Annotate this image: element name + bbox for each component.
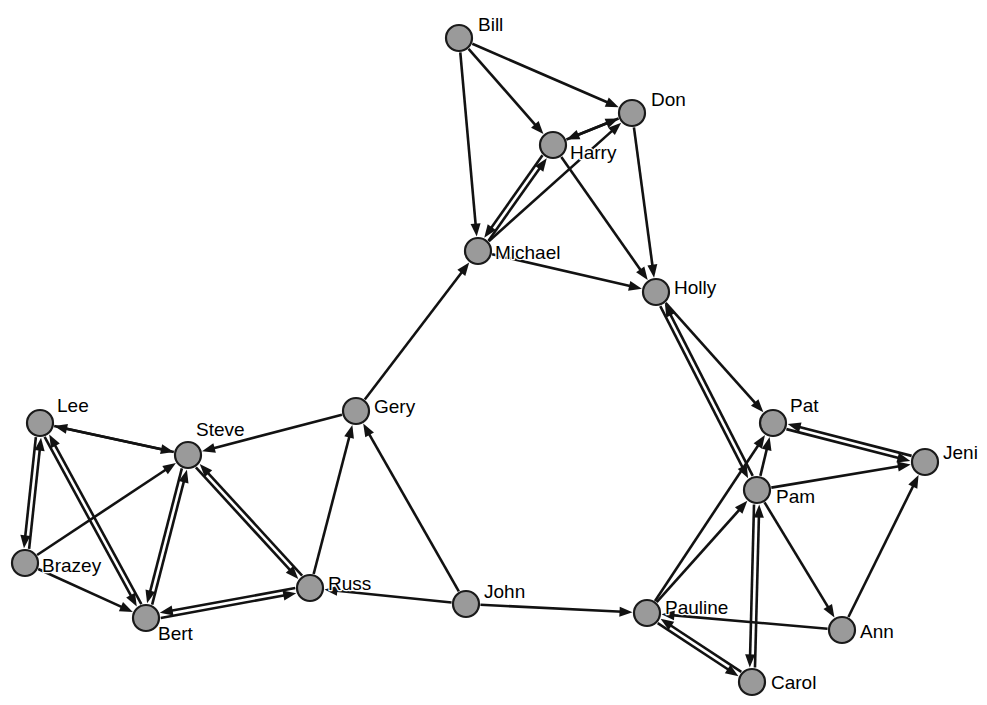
edge-line: [657, 508, 741, 602]
graph-node-carol[interactable]: Carol: [739, 669, 816, 695]
node-circle[interactable]: [446, 25, 472, 51]
edge-line: [786, 429, 900, 458]
edge-line: [566, 122, 609, 139]
node-label: Lee: [57, 395, 89, 416]
edge-line: [368, 432, 459, 591]
node-label: Steve: [196, 419, 245, 440]
node-circle[interactable]: [175, 442, 201, 468]
edge-line: [152, 479, 184, 604]
node-label: Michael: [495, 242, 560, 263]
node-label: Harry: [570, 142, 617, 163]
node-circle[interactable]: [739, 669, 765, 695]
nodes-layer: BillDonHarryMichaelHollyGeryLeeStevePatJ…: [12, 14, 978, 695]
edge-line: [561, 157, 642, 272]
graph-node-jeni[interactable]: Jeni: [912, 442, 978, 475]
node-circle[interactable]: [540, 132, 566, 158]
edge-arrowhead: [754, 505, 764, 518]
edge-line: [489, 167, 541, 241]
edge-arrowhead: [283, 591, 297, 601]
edge-arrowhead: [119, 602, 133, 612]
edge-line: [669, 624, 741, 672]
edge-arrowhead: [535, 158, 547, 172]
edge-line: [161, 595, 287, 618]
node-circle[interactable]: [619, 100, 645, 126]
node-circle[interactable]: [829, 617, 855, 643]
node-label: Pauline: [665, 597, 728, 618]
edge-arrowhead: [363, 424, 374, 438]
edge-line: [314, 435, 350, 574]
node-label: Ann: [860, 621, 894, 642]
node-circle[interactable]: [12, 550, 38, 576]
edge-line: [29, 448, 40, 549]
node-circle[interactable]: [744, 477, 770, 503]
edge-line: [206, 471, 302, 575]
node-circle[interactable]: [634, 600, 660, 626]
node-circle[interactable]: [643, 279, 669, 305]
edge-arrowhead: [628, 281, 642, 291]
node-circle[interactable]: [27, 410, 53, 436]
graph-node-ann[interactable]: Ann: [829, 617, 894, 643]
edge-line: [460, 52, 476, 226]
node-label: Pam: [776, 486, 815, 507]
edge-line: [472, 44, 609, 103]
node-label: Carol: [771, 672, 816, 693]
graph-node-russ[interactable]: Russ: [297, 573, 371, 601]
node-label: John: [484, 581, 525, 602]
node-label: Don: [651, 89, 686, 110]
edge-line: [755, 515, 759, 668]
graph-node-john[interactable]: John: [453, 581, 525, 617]
edge-arrowhead: [823, 604, 834, 618]
edge-line: [480, 605, 622, 612]
edge-line: [771, 466, 901, 488]
edge-line: [54, 443, 141, 604]
edge-line: [64, 428, 174, 452]
edge-arrowhead: [162, 463, 176, 474]
graph-node-pauline[interactable]: Pauline: [634, 597, 728, 626]
graph-node-brazey[interactable]: Brazey: [12, 550, 102, 576]
edge-line: [797, 427, 911, 456]
node-label: Holly: [674, 277, 717, 298]
graph-node-michael[interactable]: Michael: [465, 238, 560, 264]
edge-line: [196, 467, 292, 571]
edge-line: [150, 468, 182, 593]
network-diagram: BillDonHarryMichaelHollyGeryLeeStevePatJ…: [0, 0, 987, 705]
edge-line: [666, 303, 757, 405]
node-circle[interactable]: [465, 238, 491, 264]
edge-line: [669, 313, 752, 476]
node-circle[interactable]: [453, 591, 479, 617]
edge-line: [760, 447, 767, 476]
edge-arrowhead: [344, 425, 354, 439]
node-circle[interactable]: [760, 410, 786, 436]
edge-line: [469, 49, 537, 127]
node-label: Pat: [790, 395, 819, 416]
edge-line: [634, 127, 653, 267]
edge-line: [25, 437, 36, 538]
edge-line: [765, 502, 830, 609]
edge-line: [848, 484, 914, 617]
graph-node-holly[interactable]: Holly: [643, 277, 717, 305]
graph-node-gery[interactable]: Gery: [343, 396, 416, 424]
node-label: Russ: [328, 573, 371, 594]
node-label: Bill: [478, 14, 503, 35]
node-circle[interactable]: [133, 605, 159, 631]
node-label: Bert: [158, 623, 194, 644]
edge-arrowhead: [471, 223, 481, 236]
edge-line: [655, 443, 759, 600]
edge-line: [365, 270, 463, 399]
edge-arrowhead: [202, 443, 216, 453]
node-label: Gery: [374, 396, 416, 417]
edge-arrowhead: [908, 475, 918, 489]
graph-node-don[interactable]: Don: [619, 89, 686, 126]
node-circle[interactable]: [297, 575, 323, 601]
node-circle[interactable]: [343, 398, 369, 424]
edge-line: [658, 623, 730, 671]
edge-arrowhead: [619, 607, 632, 617]
edge-arrowhead: [897, 462, 911, 472]
graph-node-lee[interactable]: Lee: [27, 395, 89, 436]
node-label: Brazey: [42, 555, 102, 576]
edge-line: [750, 504, 754, 657]
edge-line: [660, 306, 743, 469]
node-label: Jeni: [943, 442, 978, 463]
edge-arrowhead: [605, 97, 619, 107]
node-circle[interactable]: [912, 449, 938, 475]
